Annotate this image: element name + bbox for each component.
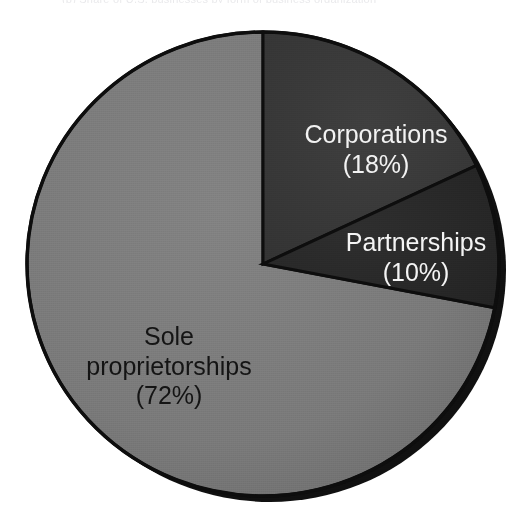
pie-chart-figure: Corporations (18%) Partnerships (10%) So… — [0, 0, 529, 517]
pie-chart-svg — [0, 0, 529, 517]
